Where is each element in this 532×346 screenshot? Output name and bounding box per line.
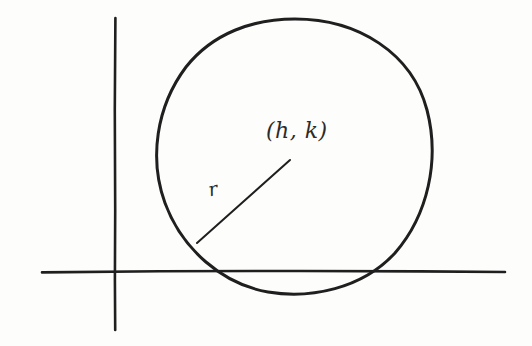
radius-segment [197, 160, 290, 243]
circle-diagram-figure: (h, k) r [0, 0, 532, 346]
x-axis-line [42, 271, 505, 272]
circle-outline [157, 19, 432, 294]
center-point-label: (h, k) [266, 118, 328, 143]
circle-shape-group [157, 19, 432, 294]
y-axis-line [115, 18, 116, 330]
radius-group [197, 160, 290, 243]
diagram-canvas [0, 0, 532, 346]
